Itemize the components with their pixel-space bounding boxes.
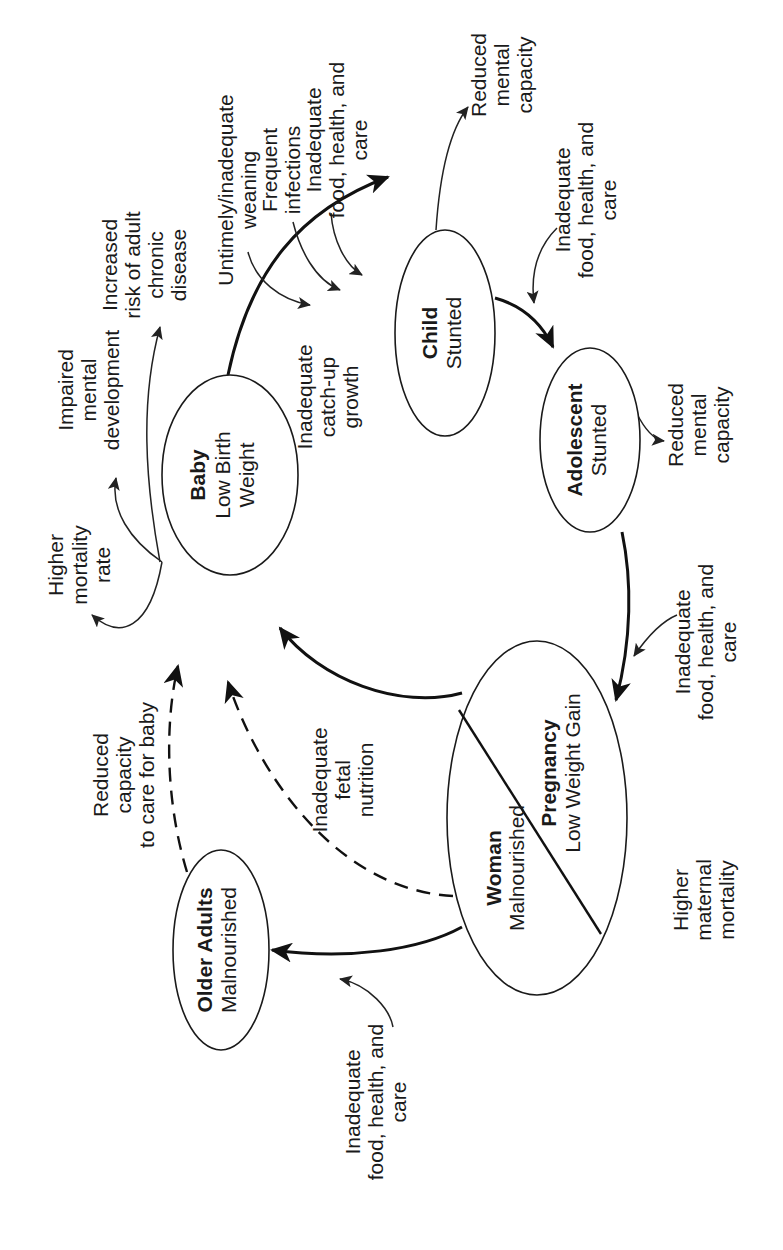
input-adolescent-food-health-care: Inadequate food, health, and care bbox=[671, 564, 740, 720]
svg-text:Inadequate: Inadequate bbox=[293, 344, 316, 449]
outcome-higher-maternal-mortality: Higher maternal mortality bbox=[669, 859, 738, 941]
svg-text:Inadequate: Inadequate bbox=[671, 589, 694, 694]
arrow-older-adults-to-baby-care bbox=[169, 666, 187, 872]
svg-text:Impaired: Impaired bbox=[54, 349, 77, 431]
woman-title: Woman bbox=[482, 830, 505, 905]
svg-text:care: care bbox=[387, 1082, 410, 1123]
outcome-adolescent-reduced-mental-capacity: Reduced mental capacity bbox=[664, 383, 733, 467]
node-child: Child Stunted bbox=[395, 230, 495, 436]
arrow-woman-to-older-adults bbox=[272, 927, 462, 954]
svg-text:Inadequate: Inadequate bbox=[551, 147, 574, 252]
woman-subtitle: Malnourished bbox=[505, 805, 528, 931]
label-care-for-baby: Reduced capacity to care for baby bbox=[89, 702, 158, 848]
svg-text:growth: growth bbox=[339, 365, 362, 428]
svg-text:nutrition: nutrition bbox=[354, 743, 377, 818]
node-baby: Baby Low Birth Weight bbox=[162, 375, 298, 575]
svg-text:Higher: Higher bbox=[44, 534, 67, 596]
svg-text:rate: rate bbox=[91, 547, 114, 583]
adolescent-title: Adolescent bbox=[563, 383, 586, 496]
adolescent-subtitle: Stunted bbox=[587, 404, 610, 476]
svg-text:mental: mental bbox=[490, 43, 513, 106]
svg-text:mental: mental bbox=[687, 393, 710, 456]
pregnancy-title: Pregnancy bbox=[537, 719, 560, 827]
label-fetal-nutrition: Inadequate fetal nutrition bbox=[308, 727, 377, 832]
node-adolescent: Adolescent Stunted bbox=[540, 348, 640, 532]
input-child-food-health-care-top: Inadequate food, health, and care bbox=[302, 62, 371, 218]
svg-text:food, health, and: food, health, and bbox=[364, 1024, 387, 1180]
svg-text:Untimely/inadequate: Untimely/inadequate bbox=[214, 94, 237, 285]
svg-text:Higher: Higher bbox=[669, 869, 692, 931]
svg-text:food, health, and: food, health, and bbox=[325, 62, 348, 218]
svg-text:Frequent: Frequent bbox=[258, 128, 281, 212]
svg-text:maternal: maternal bbox=[692, 859, 715, 941]
arrow-pregnancy-to-baby bbox=[280, 628, 462, 698]
outcome-child-reduced-mental-capacity: Reduced mental capacity bbox=[467, 33, 536, 117]
svg-text:Increased: Increased bbox=[98, 219, 121, 311]
svg-text:risk of adult: risk of adult bbox=[121, 211, 144, 319]
svg-text:Reduced: Reduced bbox=[664, 383, 687, 467]
label-catch-up-growth: Inadequate catch-up growth bbox=[293, 344, 362, 449]
outcome-adult-chronic-disease: Increased risk of adult chronic disease bbox=[98, 211, 190, 319]
older-adults-title: Older Adults bbox=[193, 887, 216, 1012]
input-child-food-health-care: Inadequate food, health, and care bbox=[551, 122, 620, 278]
input-untimely-weaning: Untimely/inadequate weaning bbox=[214, 94, 260, 285]
svg-text:Reduced: Reduced bbox=[467, 33, 490, 117]
svg-text:capacity: capacity bbox=[710, 386, 733, 464]
arrow-older-food-input bbox=[340, 979, 393, 1027]
svg-text:chronic: chronic bbox=[144, 231, 167, 299]
svg-text:capacity: capacity bbox=[112, 736, 135, 814]
node-older-adults: Older Adults Malnourished bbox=[173, 850, 269, 1050]
outcome-impaired-mental-development: Impaired mental development bbox=[54, 330, 123, 450]
svg-text:Inadequate: Inadequate bbox=[341, 1049, 364, 1154]
svg-text:care: care bbox=[348, 120, 371, 161]
input-older-adults-food-health-care: Inadequate food, health, and care bbox=[341, 1024, 410, 1180]
svg-text:fetal: fetal bbox=[331, 760, 354, 800]
svg-text:Reduced: Reduced bbox=[89, 733, 112, 817]
pregnancy-subtitle: Low Weight Gain bbox=[561, 693, 584, 853]
svg-text:catch-up: catch-up bbox=[316, 357, 339, 438]
arrow-weaning-input bbox=[248, 252, 310, 305]
arrow-baby-to-chronic bbox=[147, 327, 160, 562]
svg-text:capacity: capacity bbox=[513, 36, 536, 114]
child-title: Child bbox=[418, 307, 441, 360]
svg-text:mental: mental bbox=[77, 358, 100, 421]
outcome-higher-mortality-rate: Higher mortality rate bbox=[44, 525, 114, 605]
arrow-child-to-adolescent bbox=[495, 298, 553, 347]
svg-text:mortality: mortality bbox=[68, 525, 91, 605]
svg-text:development: development bbox=[100, 330, 123, 450]
svg-text:to care for baby: to care for baby bbox=[135, 702, 158, 848]
arrow-baby-to-mental bbox=[115, 478, 162, 562]
svg-text:disease: disease bbox=[167, 229, 190, 301]
arrow-child-food-top-input bbox=[331, 213, 362, 275]
malnutrition-lifecycle-diagram: Baby Low Birth Weight Child Stunted Adol… bbox=[0, 0, 783, 1250]
baby-line1: Low Birth bbox=[211, 431, 234, 519]
arrow-child-to-mental bbox=[436, 107, 468, 230]
older-adults-subtitle: Malnourished bbox=[217, 887, 240, 1013]
node-woman-pregnancy: Woman Malnourished Pregnancy Low Weight … bbox=[447, 641, 627, 995]
child-subtitle: Stunted bbox=[442, 297, 465, 369]
svg-text:care: care bbox=[597, 180, 620, 221]
svg-text:care: care bbox=[717, 622, 740, 663]
svg-text:food, health, and: food, health, and bbox=[574, 122, 597, 278]
svg-text:Baby: Baby bbox=[186, 449, 209, 501]
svg-text:mortality: mortality bbox=[715, 860, 738, 940]
input-frequent-infections: Frequent infections bbox=[258, 126, 304, 215]
baby-line2: Weight bbox=[235, 442, 258, 507]
svg-text:infections: infections bbox=[281, 126, 304, 215]
svg-text:Inadequate: Inadequate bbox=[302, 87, 325, 192]
arrow-adolescent-to-pregnancy bbox=[616, 532, 629, 700]
baby-title: Baby bbox=[186, 449, 209, 501]
svg-text:food, health, and: food, health, and bbox=[694, 564, 717, 720]
svg-text:weaning: weaning bbox=[237, 151, 260, 230]
svg-text:Inadequate: Inadequate bbox=[308, 727, 331, 832]
